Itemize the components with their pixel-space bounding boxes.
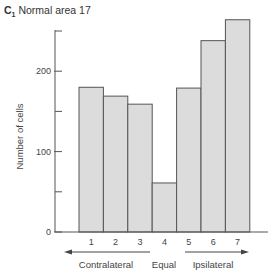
x-tick-label-4: 4 — [162, 237, 167, 247]
x-tick-label-7: 7 — [235, 237, 240, 247]
x-tick-label-5: 5 — [186, 237, 191, 247]
bars-group — [79, 20, 250, 232]
x-tick-label-1: 1 — [89, 237, 94, 247]
x-tick-label-6: 6 — [211, 237, 216, 247]
group-label-contralateral: Contralateral — [79, 259, 133, 270]
contralateral-arrow-head — [64, 250, 72, 255]
x-ticks-group: 1234567 — [89, 237, 240, 247]
bar-7 — [225, 20, 249, 232]
bar-5 — [177, 88, 201, 232]
y-tick-label-200: 200 — [36, 66, 51, 76]
bar-2 — [103, 96, 127, 232]
bar-1 — [79, 87, 103, 232]
y-tick-label-100: 100 — [36, 147, 51, 157]
bar-chart: 0100200 1234567 Number of cells Contrala… — [0, 0, 273, 273]
bar-4 — [152, 183, 176, 232]
x-tick-label-2: 2 — [113, 237, 118, 247]
bar-6 — [201, 41, 225, 232]
ipsilateral-arrow-head — [241, 250, 249, 255]
bar-3 — [128, 104, 152, 232]
y-axis-label: Number of cells — [14, 103, 25, 169]
y-ticks-group: 0100200 — [36, 31, 62, 237]
x-tick-label-3: 3 — [137, 237, 142, 247]
y-tick-label-0: 0 — [46, 227, 51, 237]
group-label-ipsilateral: Ipsilateral — [193, 259, 234, 270]
group-label-equal: Equal — [152, 259, 176, 270]
